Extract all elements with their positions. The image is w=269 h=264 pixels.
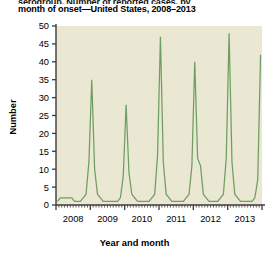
x-axis-tick-label: 2009	[97, 214, 118, 224]
figure-container: serogroup. Number of reported cases, by …	[0, 0, 269, 264]
x-axis-tick-label: 2008	[63, 214, 84, 224]
x-axis-tick-label: 2013	[234, 214, 255, 224]
y-axis-tick-label: 0	[44, 200, 49, 210]
x-axis-tick-label: 2011	[166, 214, 186, 224]
x-axis-tick-label: 2012	[200, 214, 221, 224]
y-axis-tick-label: 35	[39, 75, 49, 85]
y-axis-tick-label: 25	[39, 111, 49, 121]
y-axis-tick-label: 45	[39, 39, 49, 49]
y-axis-tick-label: 30	[39, 93, 49, 103]
y-axis-tick-label: 50	[39, 21, 49, 31]
y-axis-tick-label: 10	[39, 165, 49, 175]
chart-plot: 0510152025303540455020082009201020112012…	[0, 0, 269, 264]
y-axis-tick-label: 40	[39, 57, 49, 67]
y-axis-tick-label: 5	[44, 183, 49, 193]
y-axis-tick-label: 20	[39, 129, 49, 139]
x-axis-tick-label: 2010	[131, 214, 152, 224]
y-axis-tick-label: 15	[39, 147, 49, 157]
